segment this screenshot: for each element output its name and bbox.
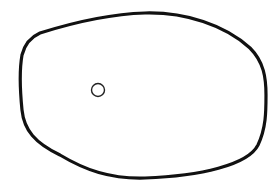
marker-circle <box>92 84 105 97</box>
outline-shape <box>20 13 266 178</box>
diagram-svg <box>0 0 280 191</box>
diagram-canvas <box>0 0 280 191</box>
